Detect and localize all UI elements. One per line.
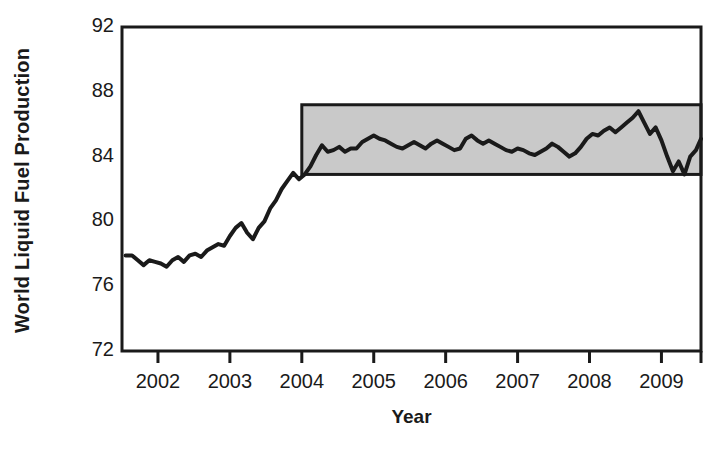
x-tick-label: 2007 [478,370,558,393]
x-tick-label: 2006 [406,370,486,393]
chart-container: World Liquid Fuel Production 92888480767… [0,0,716,451]
plot-frame [122,27,701,351]
x-tick-label: 2004 [262,370,342,393]
x-axis-ticks [158,351,701,363]
x-tick-label: 2002 [118,370,198,393]
x-tick-label: 2003 [190,370,270,393]
x-axis-title: Year [122,406,701,428]
x-tick-label: 2005 [334,370,414,393]
x-tick-label: 2008 [550,370,630,393]
x-tick-label: 2009 [621,370,701,393]
